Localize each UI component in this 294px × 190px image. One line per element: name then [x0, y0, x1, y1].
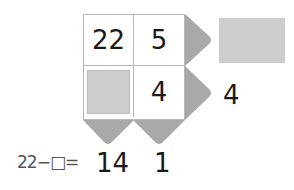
cell-r2-c2: 4: [134, 66, 184, 117]
blank-answer-box[interactable]: [87, 70, 130, 114]
cell-value: 22: [92, 25, 125, 55]
column2-result: 1: [154, 148, 171, 178]
column1-result: 14: [96, 148, 129, 178]
right-arrow-icon: [185, 14, 215, 68]
down-arrow-icon: [83, 120, 135, 148]
cell-value: 5: [151, 25, 168, 55]
row2-result: 4: [223, 80, 240, 110]
number-grid: 22 5 4: [83, 14, 185, 120]
handwritten-equation: 22−□=: [17, 152, 78, 172]
cell-r2-c1-blank[interactable]: [84, 66, 134, 117]
cell-value: 4: [151, 77, 168, 107]
row1-result-blank-box[interactable]: [219, 18, 285, 63]
cell-r1-c2: 5: [134, 15, 184, 66]
down-arrow-icon: [133, 120, 187, 148]
right-arrow-icon: [185, 66, 215, 122]
cell-r1-c1: 22: [84, 15, 134, 66]
